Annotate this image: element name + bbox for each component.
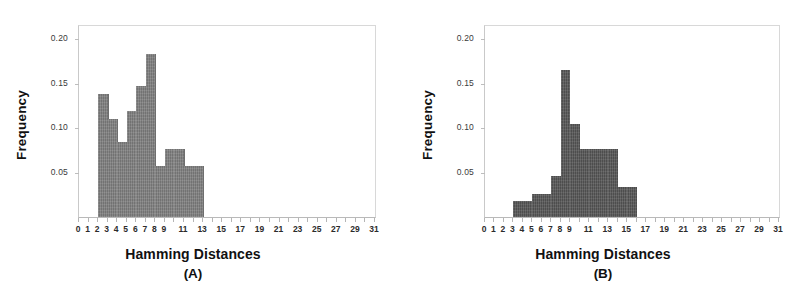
x-tick-mark — [503, 218, 504, 222]
bars-b — [485, 26, 779, 217]
x-tick-label: 29 — [350, 224, 359, 234]
x-tick-mark — [484, 218, 485, 222]
x-tick-mark — [541, 218, 542, 222]
x-tick-mark — [259, 218, 260, 222]
x-tick-label: 9 — [162, 224, 167, 234]
x-tick-mark — [531, 218, 532, 222]
x-tick-mark — [579, 218, 580, 222]
x-tick-label: 23 — [697, 224, 706, 234]
x-tick-label: 17 — [640, 224, 649, 234]
x-tick-mark — [769, 218, 770, 222]
x-tick-label: 4 — [520, 224, 525, 234]
x-tick-mark — [164, 218, 165, 222]
x-tick-mark — [778, 218, 779, 222]
x-tick-mark — [588, 218, 589, 222]
y-tick-mark — [75, 84, 79, 85]
x-tick-label: 25 — [716, 224, 725, 234]
y-tick-mark — [481, 84, 485, 85]
x-tick-label: 5 — [529, 224, 534, 234]
x-tick-mark — [288, 218, 289, 222]
x-axis-b: 01234567891113151719212325272931 — [484, 218, 780, 244]
x-tick-mark — [317, 218, 318, 222]
x-tick-label: 5 — [123, 224, 128, 234]
y-tick-label: 0.20 — [51, 33, 68, 43]
x-tick-mark — [279, 218, 280, 222]
y-tick-mark — [75, 128, 79, 129]
histogram-bar — [523, 201, 532, 217]
x-tick-label: 19 — [659, 224, 668, 234]
x-tick-mark — [154, 218, 155, 222]
x-tick-label: 3 — [104, 224, 109, 234]
x-tick-label: 0 — [76, 224, 81, 234]
x-tick-mark — [645, 218, 646, 222]
x-tick-label: 29 — [754, 224, 763, 234]
histogram-bar — [627, 187, 636, 217]
y-tick-mark — [481, 173, 485, 174]
y-tick-label: 0.05 — [457, 167, 474, 177]
x-tick-mark — [202, 218, 203, 222]
x-tick-mark — [107, 218, 108, 222]
y-tick-label: 0.10 — [51, 122, 68, 132]
x-tick-mark — [135, 218, 136, 222]
x-tick-mark — [78, 218, 79, 222]
x-tick-mark — [173, 218, 174, 222]
x-tick-mark — [664, 218, 665, 222]
x-tick-mark — [693, 218, 694, 222]
x-tick-label: 11 — [584, 224, 593, 234]
x-tick-label: 17 — [236, 224, 245, 234]
x-tick-mark — [731, 218, 732, 222]
y-tick-label: 0.15 — [457, 78, 474, 88]
x-tick-label: 8 — [152, 224, 157, 234]
x-tick-label: 1 — [85, 224, 90, 234]
x-tick-label: 23 — [293, 224, 302, 234]
x-tick-label: 27 — [735, 224, 744, 234]
x-axis-title-b: Hamming Distances — [404, 246, 796, 262]
chart-panel-b: Frequency 0.050.100.150.20 0123456789111… — [398, 0, 796, 296]
x-tick-mark — [674, 218, 675, 222]
x-tick-label: 7 — [142, 224, 147, 234]
y-tick-label: 0.05 — [51, 167, 68, 177]
x-tick-mark — [636, 218, 637, 222]
x-axis-title-a: Hamming Distances — [0, 246, 392, 262]
x-tick-mark — [750, 218, 751, 222]
histogram-bar — [589, 149, 598, 217]
panel-caption-a: (A) — [0, 266, 392, 281]
x-tick-mark — [193, 218, 194, 222]
bars-a — [79, 26, 375, 217]
histogram-bar — [551, 176, 560, 217]
x-tick-label: 6 — [539, 224, 544, 234]
x-tick-mark — [126, 218, 127, 222]
plot-area-b — [484, 25, 780, 218]
x-tick-mark — [240, 218, 241, 222]
x-tick-mark — [740, 218, 741, 222]
x-tick-label: 2 — [95, 224, 100, 234]
histogram-bar — [618, 187, 627, 217]
x-tick-mark — [231, 218, 232, 222]
x-tick-mark — [183, 218, 184, 222]
x-tick-mark — [345, 218, 346, 222]
histogram-bar — [561, 70, 570, 217]
y-tick-label: 0.10 — [457, 122, 474, 132]
x-tick-label: 2 — [501, 224, 506, 234]
x-tick-label: 9 — [567, 224, 572, 234]
x-tick-mark — [683, 218, 684, 222]
x-tick-mark — [88, 218, 89, 222]
x-tick-mark — [336, 218, 337, 222]
x-tick-mark — [607, 218, 608, 222]
x-tick-label: 21 — [274, 224, 283, 234]
histogram-bar — [513, 201, 522, 217]
histogram-bar — [570, 124, 579, 217]
y-tick-mark — [75, 39, 79, 40]
histogram-bar — [194, 166, 205, 217]
y-axis-labels-b: 0.050.100.150.20 — [398, 25, 480, 218]
x-tick-mark — [560, 218, 561, 222]
x-tick-mark — [569, 218, 570, 222]
x-tick-label: 7 — [548, 224, 553, 234]
x-tick-mark — [550, 218, 551, 222]
y-tick-label: 0.15 — [51, 78, 68, 88]
chart-panel-a: Frequency 0.050.100.150.20 0123456789111… — [0, 0, 398, 296]
x-tick-label: 1 — [491, 224, 496, 234]
x-tick-mark — [364, 218, 365, 222]
x-tick-mark — [712, 218, 713, 222]
y-axis-labels-a: 0.050.100.150.20 — [0, 25, 74, 218]
